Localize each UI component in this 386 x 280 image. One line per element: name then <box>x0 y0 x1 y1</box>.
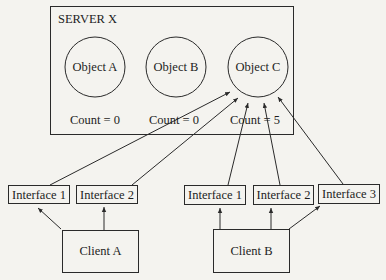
client-b-interface-1: Interface 1 <box>184 186 246 205</box>
client-a-interface-2: Interface 2 <box>76 186 138 204</box>
client-b-interface-2: Interface 2 <box>253 186 314 205</box>
object-b-label: Object B <box>146 59 206 75</box>
object-a-label: Object A <box>65 59 125 75</box>
client-b-interface-3-link <box>278 97 343 184</box>
client-b-label: Client B <box>213 229 290 273</box>
client-a-interface-1-link <box>50 92 230 185</box>
client-a-label: Client A <box>62 230 139 273</box>
reference-count-diagram: SERVER X Object A Object B Object C Coun… <box>0 0 386 280</box>
client-b-to-interface-3-arrow <box>289 206 320 229</box>
diagram-shapes <box>0 0 386 280</box>
object-b-count: Count = 0 <box>139 112 209 128</box>
object-a-count: Count = 0 <box>60 112 130 128</box>
client-a-interface-1: Interface 1 <box>8 186 70 204</box>
client-a-to-interface-1-arrow <box>38 208 61 229</box>
server-title: SERVER X <box>58 13 117 26</box>
object-c-label: Object C <box>228 59 288 75</box>
client-b-interface-3: Interface 3 <box>318 185 380 204</box>
object-c-count: Count = 5 <box>220 112 290 128</box>
